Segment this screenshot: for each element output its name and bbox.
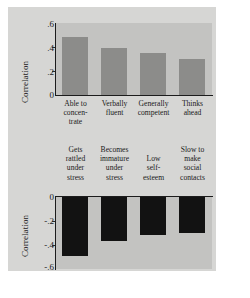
category-label-line: social xyxy=(174,163,211,172)
category-label-spacer xyxy=(135,145,172,154)
y-axis-title-top: Correlation xyxy=(20,61,30,103)
x-axis-category-labels-bottom: Gets rattled under stress Becomes immatu… xyxy=(56,145,212,182)
category-label-line: Gets xyxy=(57,145,94,154)
bar-group-negative xyxy=(56,197,212,269)
category-label-line: Low xyxy=(135,154,172,163)
y-tick-label: .2 xyxy=(32,68,54,77)
category-label-line: stress xyxy=(96,173,133,182)
x-axis-category-labels-top: Able to concen- trate Verbally fluent Ge… xyxy=(56,99,212,127)
category-label: Generally competent xyxy=(134,99,173,127)
category-label-line: Thinks xyxy=(174,99,211,108)
category-label: Becomes immature under stress xyxy=(95,145,134,182)
y-tick-label: -.6 xyxy=(32,263,54,272)
category-label-line: Able to xyxy=(57,99,94,108)
category-label-line: rattled xyxy=(57,154,94,163)
y-tick-label: -.4 xyxy=(32,241,54,250)
category-label-line: under xyxy=(57,163,94,172)
category-label-line: Becomes xyxy=(96,145,133,154)
category-label-line: fluent xyxy=(96,108,133,117)
category-label-line: ahead xyxy=(174,108,211,117)
category-label: Verbally fluent xyxy=(95,99,134,127)
bar xyxy=(62,37,88,95)
category-label: Able to concen- trate xyxy=(56,99,95,127)
category-label-line: concen- xyxy=(57,108,94,117)
bar xyxy=(179,59,205,95)
category-label-line: under xyxy=(96,163,133,172)
bar xyxy=(140,197,166,235)
category-label: Gets rattled under stress xyxy=(56,145,95,182)
bar xyxy=(101,48,127,95)
bar xyxy=(140,53,166,95)
plot-area-negative xyxy=(56,197,212,269)
category-label: Thinks ahead xyxy=(173,99,212,127)
category-label-line: Verbally xyxy=(96,99,133,108)
category-label-line: Generally xyxy=(135,99,172,108)
chart-panel-positive: Correlation .6 .4 .2 0 Able to concen- t… xyxy=(8,11,216,139)
x-axis-line-top xyxy=(55,95,213,96)
y-tick-label: 0 xyxy=(32,91,54,100)
category-label: Low self- esteem xyxy=(134,145,173,182)
category-label-line: make xyxy=(174,154,211,163)
bar-group-positive xyxy=(56,23,212,95)
category-label-line: immature xyxy=(96,154,133,163)
category-label-line: esteem xyxy=(135,173,172,182)
y-tick-label: .4 xyxy=(32,44,54,53)
y-tick-label: -.2 xyxy=(32,217,54,226)
y-axis-line-top xyxy=(55,23,56,96)
bar xyxy=(101,197,127,241)
plot-area-positive xyxy=(56,23,212,95)
category-label-line: competent xyxy=(135,108,172,117)
category-label: Slow to make social contacts xyxy=(173,145,212,182)
category-label-line: self- xyxy=(135,163,172,172)
y-axis-line-bottom xyxy=(55,197,56,270)
figure-container: Correlation .6 .4 .2 0 Able to concen- t… xyxy=(8,7,216,271)
category-label-line: contacts xyxy=(174,173,211,182)
category-label-line: stress xyxy=(57,173,94,182)
x-axis-line-bottom xyxy=(55,196,213,197)
chart-panel-negative: Correlation 0 -.2 -.4 -.6 Gets rattled u… xyxy=(8,139,216,271)
bar xyxy=(179,197,205,233)
bar xyxy=(62,197,88,256)
y-axis-title-bottom: Correlation xyxy=(20,215,30,257)
y-tick-label: .6 xyxy=(32,20,54,29)
category-label-line: Slow to xyxy=(174,145,211,154)
y-tick-label: 0 xyxy=(32,193,54,202)
category-label-line: trate xyxy=(57,117,94,126)
